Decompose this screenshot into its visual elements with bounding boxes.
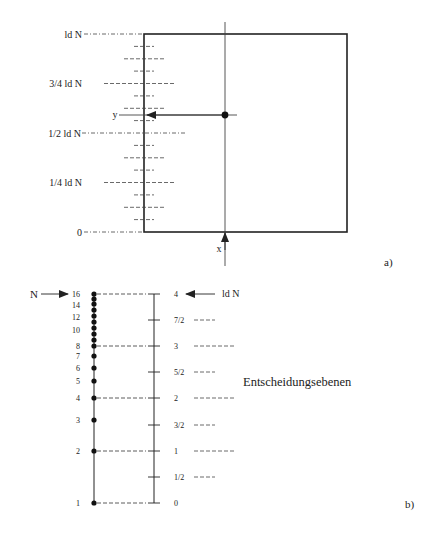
figure-b: 16 14 12 10 8 7 6 5 4 3 2 1 4 7/2 3 5/2 … [30,288,415,511]
label-ld-n: ld N [65,29,83,40]
decision-plane-dashes [194,320,235,477]
n-arrow-label: N [30,288,38,300]
ld-label: 1/2 [174,473,184,482]
n-label: 10 [72,326,80,335]
n-label: 1 [76,499,80,508]
ld-label: 3 [174,342,178,351]
ld-label: 3/2 [174,421,184,430]
n-label: 5 [76,377,80,386]
label-three-quarter-ld-n: 3/4 ld N [49,78,82,89]
n-label: 12 [72,313,80,322]
decision-planes-label: Entscheidungsebenen [243,375,352,389]
figure-a-label: a) [384,256,393,269]
label-half-ld-n: 1/2 ld N [48,128,81,139]
n-label: 8 [76,342,80,351]
diagram-canvas: ld N 3/4 ld N 1/2 ld N 1/4 ld N 0 x y a) [0,0,438,536]
ld-label: 7/2 [174,316,184,325]
label-quarter-ld-n: 1/4 ld N [49,177,82,188]
ld-label: 5/2 [174,368,184,377]
ld-n-arrow-label: ld N [222,288,240,299]
n-label: 4 [76,394,80,403]
n-labels: 16 14 12 10 8 7 6 5 4 3 2 1 [72,290,80,508]
figure-b-label: b) [405,498,415,511]
ld-label: 0 [174,499,178,508]
ld-label: 2 [174,394,178,403]
label-x: x [217,243,222,254]
power-of-two-connectors [97,294,146,503]
ld-label: 4 [174,290,178,299]
n-label: 14 [72,301,80,310]
n-label: 7 [76,352,80,361]
n-label: 16 [72,290,80,299]
figure-a: ld N 3/4 ld N 1/2 ld N 1/4 ld N 0 x y a) [48,22,393,269]
n-label: 3 [76,416,80,425]
n-label: 6 [76,364,80,373]
reference-lines [82,34,186,232]
ld-label: 1 [174,447,178,456]
ld-n-labels: 4 7/2 3 5/2 2 3/2 1 1/2 0 [174,290,184,508]
label-zero: 0 [77,227,82,238]
n-label: 2 [76,447,80,456]
label-y: y [113,109,118,120]
mapping-point [222,112,229,119]
